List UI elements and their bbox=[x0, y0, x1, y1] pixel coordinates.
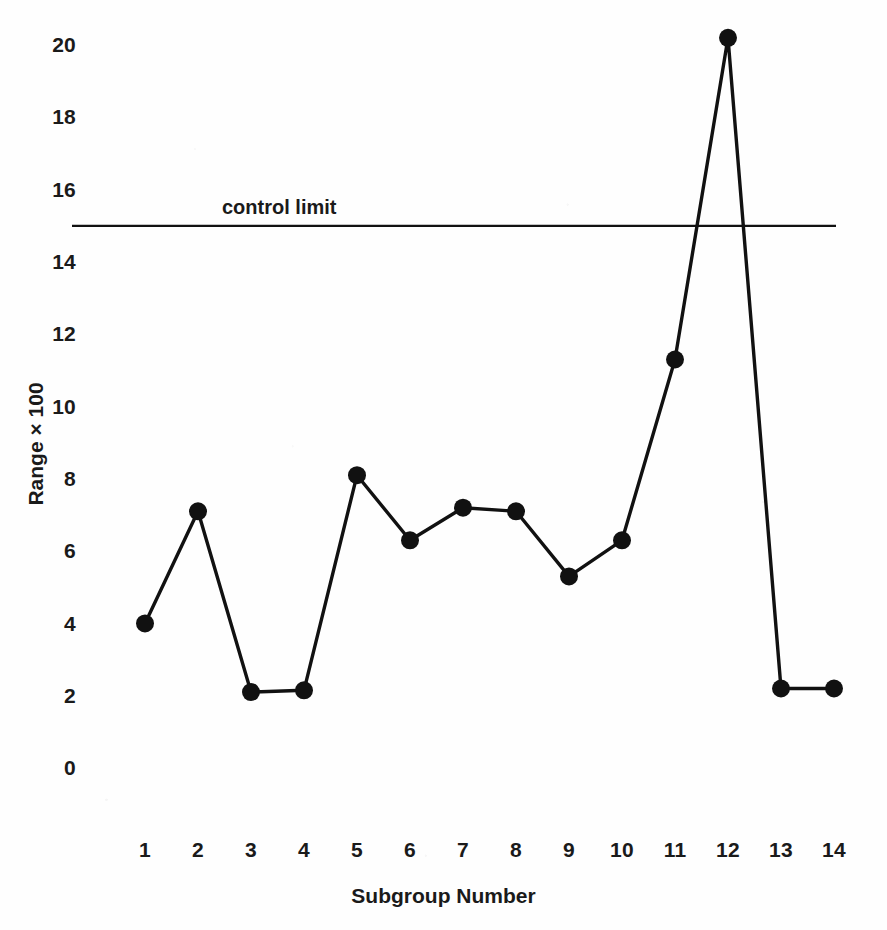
series-line bbox=[145, 38, 834, 692]
data-point bbox=[719, 29, 737, 47]
data-point bbox=[242, 683, 260, 701]
x-tick-label-4: 4 bbox=[284, 838, 324, 862]
x-tick-label-11: 11 bbox=[655, 838, 695, 862]
data-point bbox=[825, 680, 843, 698]
x-tick-label-6: 6 bbox=[390, 838, 430, 862]
data-point bbox=[401, 531, 419, 549]
x-tick-label-5: 5 bbox=[337, 838, 377, 862]
x-tick-label-8: 8 bbox=[496, 838, 536, 862]
x-tick-label-14: 14 bbox=[814, 838, 854, 862]
x-axis-title: Subgroup Number bbox=[0, 884, 887, 908]
data-point bbox=[136, 614, 154, 632]
data-point bbox=[454, 499, 472, 517]
data-point bbox=[613, 531, 631, 549]
x-tick-label-7: 7 bbox=[443, 838, 483, 862]
data-point bbox=[666, 351, 684, 369]
x-tick-label-2: 2 bbox=[178, 838, 218, 862]
data-point bbox=[507, 502, 525, 520]
data-point bbox=[348, 466, 366, 484]
x-tick-label-10: 10 bbox=[602, 838, 642, 862]
data-point bbox=[560, 567, 578, 585]
x-tick-label-3: 3 bbox=[231, 838, 271, 862]
x-tick-label-13: 13 bbox=[761, 838, 801, 862]
x-tick-label-9: 9 bbox=[549, 838, 589, 862]
chart-plot-area bbox=[0, 0, 887, 930]
chart-page: 20 18 16 14 12 10 8 6 4 2 0 Range × 100 … bbox=[0, 0, 887, 930]
data-point bbox=[772, 680, 790, 698]
x-tick-label-12: 12 bbox=[708, 838, 748, 862]
data-point bbox=[189, 502, 207, 520]
x-tick-label-1: 1 bbox=[125, 838, 165, 862]
data-point bbox=[295, 681, 313, 699]
